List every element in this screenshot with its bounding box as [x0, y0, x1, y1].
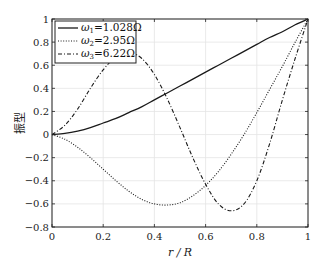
x-tick-label: 0.6: [198, 231, 214, 242]
legend-label-3: ω3=6.22Ω: [81, 47, 135, 61]
y-tick-label: −0.8: [25, 222, 49, 233]
y-tick-label: 0.6: [33, 60, 49, 71]
y-axis-label: 振型: [13, 112, 27, 134]
y-tick-label: −0.4: [25, 175, 49, 186]
y-tick-label: 0.2: [33, 106, 49, 117]
y-tick-label: 0: [43, 129, 49, 140]
x-tick-labels: 00.20.40.60.81: [49, 231, 311, 242]
y-tick-labels: −0.8−0.6−0.4−0.200.20.40.60.81: [25, 14, 49, 233]
x-tick-label: 0.4: [146, 231, 162, 242]
x-tick-label: 1: [305, 231, 311, 242]
x-tick-label: 0.8: [249, 231, 265, 242]
legend-label-2: ω2=2.95Ω: [81, 34, 135, 48]
x-axis-label: r / R: [168, 246, 192, 259]
y-tick-label: 0.8: [33, 37, 49, 48]
x-tick-label: 0.2: [95, 231, 111, 242]
y-tick-label: −0.2: [25, 152, 49, 163]
legend: ω1=1.028Ωω2=2.95Ωω3=6.22Ω: [55, 21, 142, 63]
y-tick-label: 1: [43, 14, 49, 25]
x-tick-label: 0: [49, 231, 55, 242]
y-tick-label: −0.6: [25, 198, 49, 209]
y-tick-label: 0.4: [33, 83, 49, 94]
line-chart: 00.20.40.60.81 −0.8−0.6−0.4−0.200.20.40.…: [0, 0, 321, 265]
